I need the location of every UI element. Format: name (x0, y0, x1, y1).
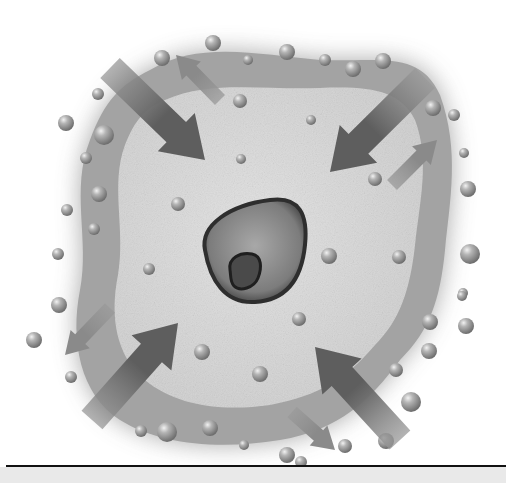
particle-bubble (94, 125, 114, 145)
particle-bubble (61, 204, 73, 216)
particle-bubble (448, 109, 460, 121)
particle-bubble (171, 197, 185, 211)
particle-bubble (460, 181, 476, 197)
particle-bubble (233, 94, 247, 108)
particle-bubble (135, 425, 147, 437)
particle-bubble (422, 314, 438, 330)
particle-bubble (460, 244, 480, 264)
particle-bubble (458, 318, 474, 334)
particle-bubble (194, 344, 210, 360)
particle-bubble (292, 312, 306, 326)
particle-bubble (205, 35, 221, 51)
particle-bubble (202, 420, 218, 436)
particle-bubble (58, 115, 74, 131)
particle-bubble (92, 88, 104, 100)
particle-bubble (279, 447, 295, 463)
particle-bubble (88, 223, 100, 235)
particle-bubble (143, 263, 155, 275)
particle-bubble (338, 439, 352, 453)
particle-bubble (65, 371, 77, 383)
particle-bubble (389, 363, 403, 377)
nucleolus (230, 254, 261, 289)
particle-bubble (375, 53, 391, 69)
particle-bubble (52, 248, 64, 260)
footer-band (0, 467, 506, 483)
particle-bubble (252, 366, 268, 382)
particle-bubble (26, 332, 42, 348)
particle-bubble (279, 44, 295, 60)
particle-bubble (457, 291, 467, 301)
particle-bubble (392, 250, 406, 264)
particle-bubble (154, 50, 170, 66)
particle-bubble (236, 154, 246, 164)
particle-bubble (425, 100, 441, 116)
particle-bubble (80, 152, 92, 164)
particle-bubble (306, 115, 316, 125)
particle-bubble (239, 440, 249, 450)
particle-bubble (51, 297, 67, 313)
cell-diffusion-diagram (0, 0, 506, 483)
particle-bubble (321, 248, 337, 264)
particle-bubble (401, 392, 421, 412)
particle-bubble (157, 422, 177, 442)
particle-bubble (459, 148, 469, 158)
particle-bubble (345, 61, 361, 77)
particle-bubble (319, 54, 331, 66)
particle-bubble (91, 186, 107, 202)
particle-bubble (368, 172, 382, 186)
particle-bubble (243, 55, 253, 65)
particle-bubble (421, 343, 437, 359)
